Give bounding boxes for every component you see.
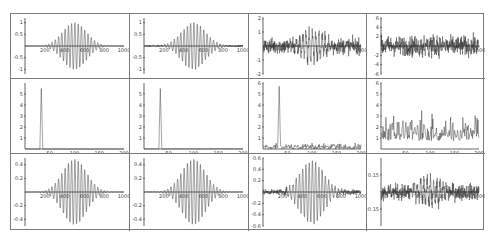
y-tick-label: 5 — [376, 91, 379, 97]
y-tick-label: 1 — [376, 135, 379, 141]
plot-panel-r2-c2: 0.60.40.2-0.2-0.4-0.62004006008001000 — [249, 154, 367, 231]
y-tick-label: 2 — [258, 15, 261, 21]
plot-panel-r0-c0: 10.5-0.5-12004006008001000 — [11, 14, 130, 79]
x-tick-label: 600 — [199, 47, 209, 53]
x-tick-label: 600 — [435, 193, 445, 199]
data-series — [381, 173, 479, 209]
y-tick-label: 2 — [20, 124, 23, 130]
plot-panel-r1-c1: 1234550100150200 — [130, 79, 249, 154]
plot-svg: 0.15-0.152004006008001000 — [367, 154, 485, 231]
y-tick-label: 0.2 — [15, 175, 23, 181]
plot-svg: 642-2-4-61000 — [367, 14, 485, 79]
y-tick-label: -2 — [374, 52, 379, 58]
data-series — [144, 89, 243, 150]
y-tick-label: -0.2 — [13, 202, 23, 208]
y-tick-label: 5 — [20, 91, 23, 97]
y-tick-label: -0.2 — [132, 202, 142, 208]
plot-svg: 1234550100150200 — [11, 79, 130, 154]
x-tick-label: 200 — [159, 47, 169, 53]
x-tick-label: 200 — [396, 193, 406, 199]
x-tick-label: 800 — [99, 47, 109, 53]
y-tick-label: -0.5 — [13, 54, 23, 60]
y-tick-label: 1 — [139, 19, 142, 25]
y-tick-label: -1 — [256, 57, 261, 63]
plot-svg: 10.5-0.5-12004006008001000 — [11, 14, 130, 79]
data-series — [25, 89, 124, 150]
x-tick-label: 400 — [415, 193, 425, 199]
y-tick-label: -0.4 — [251, 211, 261, 217]
y-tick-label: 1 — [20, 19, 23, 25]
x-tick-label: 600 — [199, 193, 209, 199]
y-tick-label: -0.2 — [251, 200, 261, 206]
y-tick-label: 2 — [139, 124, 142, 130]
y-tick-label: 1 — [258, 29, 261, 35]
y-tick-label: -2 — [256, 71, 261, 77]
y-tick-label: 0.5 — [134, 31, 142, 37]
x-tick-label: 1000 — [118, 193, 130, 199]
y-tick-label: -4 — [374, 61, 379, 67]
y-tick-label: 4 — [139, 102, 142, 108]
y-tick-label: 4 — [258, 102, 261, 108]
x-tick-label: 600 — [80, 193, 90, 199]
x-tick-label: 600 — [80, 47, 90, 53]
plot-panel-r2-c0: 0.40.2-0.2-0.42004006008001000 — [11, 154, 130, 231]
y-tick-label: 0.6 — [253, 155, 261, 161]
y-tick-label: 6 — [376, 80, 379, 86]
x-tick-label: 800 — [455, 193, 465, 199]
plot-panel-r0-c2: 21-1-21000 — [249, 14, 367, 79]
x-tick-label: 200 — [40, 193, 50, 199]
plot-panel-r1-c0: 1234550100150200 — [11, 79, 130, 154]
plot-panel-r2-c1: 0.40.2-0.2-0.42004006008001000 — [130, 154, 249, 231]
y-tick-label: -0.15 — [367, 206, 379, 212]
y-tick-label: 2 — [258, 124, 261, 130]
plot-svg: 21-1-21000 — [249, 14, 367, 79]
x-tick-label: 1000 — [473, 47, 485, 53]
x-tick-label: 800 — [218, 193, 228, 199]
x-tick-label: 200 — [40, 47, 50, 53]
y-tick-label: 4 — [376, 102, 379, 108]
x-tick-label: 400 — [179, 193, 189, 199]
y-tick-label: 1 — [258, 135, 261, 141]
y-tick-label: 0.2 — [134, 175, 142, 181]
y-tick-label: -1 — [137, 66, 142, 72]
y-tick-label: 1 — [20, 135, 23, 141]
plot-panel-r1-c2: 12345650100150200 — [249, 79, 367, 154]
plot-svg: 12345650100150200 — [367, 79, 485, 154]
x-tick-label: 1000 — [473, 193, 485, 199]
y-tick-label: 0.4 — [134, 161, 142, 167]
plot-svg: 12345650100150200 — [249, 79, 367, 154]
x-tick-label: 600 — [317, 193, 327, 199]
y-tick-label: 3 — [376, 113, 379, 119]
x-tick-label: 200 — [159, 193, 169, 199]
x-tick-label: 400 — [297, 193, 307, 199]
y-tick-label: 0.4 — [253, 166, 261, 172]
y-tick-label: 2 — [376, 33, 379, 39]
y-tick-label: -0.4 — [13, 216, 23, 222]
x-tick-label: 1000 — [118, 47, 130, 53]
y-tick-label: 1 — [139, 135, 142, 141]
y-tick-label: -0.4 — [132, 216, 142, 222]
y-tick-label: 4 — [376, 24, 379, 30]
plot-grid: 10.5-0.5-1200400600800100010.5-0.5-12004… — [10, 13, 484, 230]
x-tick-label: 1000 — [355, 47, 367, 53]
x-tick-label: 800 — [337, 193, 347, 199]
y-tick-label: -1 — [18, 66, 23, 72]
y-tick-label: -0.6 — [251, 223, 261, 229]
plot-svg: 0.40.2-0.2-0.42004006008001000 — [130, 154, 249, 231]
y-tick-label: 3 — [139, 113, 142, 119]
plot-svg: 10.5-0.5-12004006008001000 — [130, 14, 249, 79]
y-tick-label: 0.2 — [253, 177, 261, 183]
plot-panel-r0-c3: 642-2-4-61000 — [367, 14, 485, 79]
x-tick-label: 1000 — [237, 193, 249, 199]
x-tick-label: 400 — [60, 47, 70, 53]
x-tick-label: 400 — [60, 193, 70, 199]
x-tick-label: 800 — [99, 193, 109, 199]
plot-panel-r0-c1: 10.5-0.5-12004006008001000 — [130, 14, 249, 79]
plot-svg: 0.40.2-0.2-0.42004006008001000 — [11, 154, 130, 231]
y-tick-label: -6 — [374, 71, 379, 77]
y-tick-label: 0.15 — [368, 172, 379, 178]
x-tick-label: 400 — [179, 47, 189, 53]
y-tick-label: 0.5 — [15, 31, 23, 37]
plot-panel-r2-c3: 0.15-0.152004006008001000 — [367, 154, 485, 231]
data-series — [381, 32, 479, 59]
